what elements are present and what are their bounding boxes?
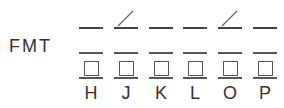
top-line xyxy=(79,27,103,29)
base-line xyxy=(79,77,103,79)
mid-line xyxy=(218,52,242,54)
row-label: FMT xyxy=(9,36,52,57)
checkbox-icon[interactable] xyxy=(223,61,238,76)
mid-line xyxy=(149,52,173,54)
mid-line xyxy=(79,52,103,54)
column-letter: O xyxy=(218,83,242,104)
column-h: H xyxy=(79,0,103,108)
base-line xyxy=(183,77,207,79)
column-j: J xyxy=(114,0,138,108)
checkbox-icon[interactable] xyxy=(119,61,134,76)
top-line xyxy=(253,27,277,29)
checkbox-icon[interactable] xyxy=(154,61,169,76)
base-line xyxy=(253,77,277,79)
column-letter: L xyxy=(183,83,207,104)
column-l: L xyxy=(183,0,207,108)
diagonal-stroke-icon xyxy=(117,10,134,27)
top-line xyxy=(183,27,207,29)
checkbox-icon[interactable] xyxy=(188,61,203,76)
base-line xyxy=(218,77,242,79)
column-letter: P xyxy=(253,83,277,104)
base-line xyxy=(114,77,138,79)
mid-line xyxy=(253,52,277,54)
top-line xyxy=(114,27,138,29)
top-line xyxy=(218,27,242,29)
column-letter: J xyxy=(114,83,138,104)
checkbox-icon[interactable] xyxy=(84,61,99,76)
diagonal-stroke-icon xyxy=(221,10,238,27)
column-letter: K xyxy=(149,83,173,104)
column-k: K xyxy=(149,0,173,108)
checkbox-icon[interactable] xyxy=(258,61,273,76)
column-o: O xyxy=(218,0,242,108)
mid-line xyxy=(183,52,207,54)
base-line xyxy=(149,77,173,79)
mid-line xyxy=(114,52,138,54)
column-letter: H xyxy=(79,83,103,104)
top-line xyxy=(149,27,173,29)
column-p: P xyxy=(253,0,277,108)
